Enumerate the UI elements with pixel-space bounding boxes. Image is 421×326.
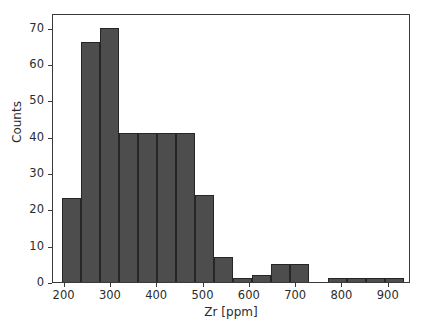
histogram-bar bbox=[62, 198, 81, 282]
x-axis-tick bbox=[203, 283, 204, 287]
x-axis-tick bbox=[295, 283, 296, 287]
histogram-bar bbox=[385, 278, 404, 282]
x-axis-tick bbox=[388, 283, 389, 287]
y-axis-tick bbox=[48, 247, 52, 248]
histogram-bar bbox=[347, 278, 366, 282]
histogram-bar bbox=[214, 257, 233, 282]
x-axis-tick-label: 400 bbox=[136, 290, 176, 302]
y-axis-tick-label: 60 bbox=[0, 59, 44, 71]
histogram-bar bbox=[366, 278, 385, 282]
y-axis-tick bbox=[48, 138, 52, 139]
y-axis-tick-label: 30 bbox=[0, 168, 44, 180]
x-axis-tick-label: 200 bbox=[44, 290, 84, 302]
histogram-bar bbox=[100, 28, 119, 282]
x-axis-tick-label: 800 bbox=[321, 290, 361, 302]
histogram-bar bbox=[138, 133, 157, 282]
y-axis-tick bbox=[48, 283, 52, 284]
x-axis-tick-label: 300 bbox=[90, 290, 130, 302]
histogram-bar bbox=[176, 133, 195, 282]
x-axis-tick bbox=[249, 283, 250, 287]
x-axis-tick bbox=[156, 283, 157, 287]
histogram-bar bbox=[195, 195, 214, 282]
histogram-bar bbox=[328, 278, 347, 282]
y-axis-tick-label: 20 bbox=[0, 204, 44, 216]
histogram-bar bbox=[290, 264, 309, 282]
histogram-bar bbox=[81, 42, 100, 282]
y-axis-tick-label: 0 bbox=[0, 277, 44, 289]
y-axis-tick bbox=[48, 210, 52, 211]
histogram-figure: Zr [ppm] Counts 010203040506070200300400… bbox=[0, 0, 421, 326]
histogram-bar bbox=[157, 133, 176, 282]
y-axis-tick-label: 40 bbox=[0, 132, 44, 144]
x-axis-label: Zr [ppm] bbox=[52, 305, 410, 319]
y-axis-tick-label: 10 bbox=[0, 241, 44, 253]
y-axis-tick bbox=[48, 65, 52, 66]
x-axis-tick-label: 600 bbox=[229, 290, 269, 302]
x-axis-tick bbox=[64, 283, 65, 287]
histogram-bar bbox=[119, 133, 138, 282]
x-axis-tick-label: 700 bbox=[275, 290, 315, 302]
histogram-bar bbox=[233, 278, 252, 282]
y-axis-tick bbox=[48, 101, 52, 102]
x-axis-tick bbox=[110, 283, 111, 287]
y-axis-tick-label: 70 bbox=[0, 23, 44, 35]
y-axis-tick-label: 50 bbox=[0, 95, 44, 107]
plot-area bbox=[52, 14, 410, 283]
y-axis-tick bbox=[48, 174, 52, 175]
x-axis-tick-label: 900 bbox=[368, 290, 408, 302]
histogram-bar bbox=[271, 264, 290, 282]
y-axis-tick bbox=[48, 29, 52, 30]
x-axis-tick-label: 500 bbox=[183, 290, 223, 302]
x-axis-tick bbox=[341, 283, 342, 287]
histogram-bar bbox=[252, 275, 271, 282]
